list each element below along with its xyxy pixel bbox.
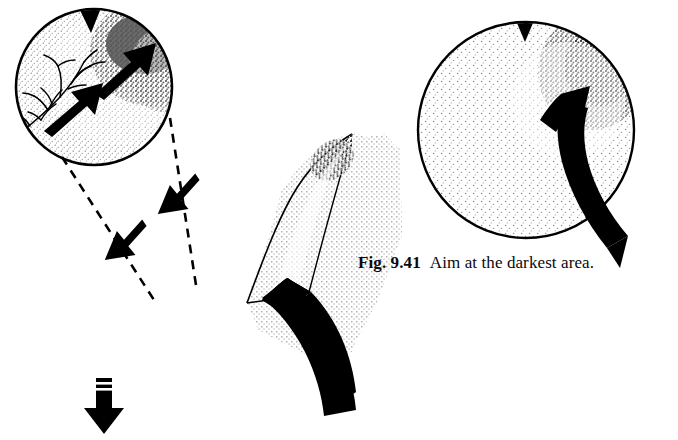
- down-arrow-hatch-1: [95, 382, 113, 385]
- down-arrow-hatch-2: [95, 388, 113, 391]
- figure-container: Fig. 9.41Aim at the darkest area.: [0, 0, 678, 440]
- down-arrow-shape: [84, 378, 124, 434]
- main-ball-panel: [418, 14, 646, 268]
- magnified-inset-panel: [16, 0, 214, 165]
- figure-illustration: [0, 0, 678, 440]
- down-force-arrow: [84, 378, 124, 434]
- figure-caption: Fig. 9.41Aim at the darkest area.: [358, 252, 674, 273]
- figure-caption-text: Aim at the darkest area.: [430, 253, 594, 272]
- figure-number: Fig. 9.41: [358, 253, 421, 272]
- callout-arrow-upper: [158, 170, 200, 218]
